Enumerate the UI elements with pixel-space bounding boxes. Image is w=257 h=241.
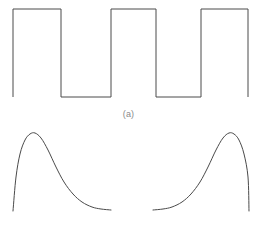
panel-b-spike-wave: (b) [0, 124, 257, 241]
left-spike-trace [13, 133, 111, 211]
square-wave-trace [13, 9, 248, 97]
spike-wave-plot [0, 124, 257, 224]
right-spike-trace [153, 133, 249, 211]
figure-container: (a) (b) [0, 0, 257, 241]
panel-a-square-wave: (a) [0, 0, 257, 124]
panel-a-caption: (a) [0, 109, 257, 120]
square-wave-plot [0, 0, 257, 110]
